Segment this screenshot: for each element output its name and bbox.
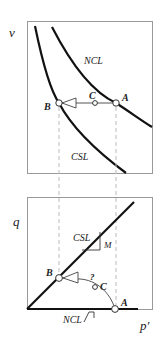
bottom-panel: q p′ CSL M NCL B ? C A [13,198,153,334]
csl-line [27,202,134,309]
top-panel: v NCL CSL B C A [9,22,153,174]
ncl-curve [52,27,152,127]
bottom-panel-frame [28,198,153,310]
csl-label: CSL [71,151,89,162]
ncl-label-bottom: NCL [62,314,82,325]
point-a [113,100,119,106]
point-a-bottom [112,306,119,313]
q-axis-label: q [13,214,20,229]
label-b: B [43,101,51,112]
stress-path [62,278,115,309]
label-c: C [89,90,96,101]
label-a-bottom: A [120,297,128,308]
label-b-bottom: B [45,267,53,278]
ncl-label: NCL [83,55,103,66]
point-b [56,100,62,106]
stress-path-arrow-icon [63,272,78,283]
label-c-bottom: C [100,281,107,292]
critical-state-diagram: v NCL CSL B C A q p′ CSL M NCL [0,0,163,348]
p-axis-label: p′ [139,318,150,333]
csl-label-bottom: CSL [73,232,91,243]
projection-lines [59,107,116,305]
question-mark: ? [90,272,95,282]
point-c-bottom [93,285,98,290]
ncl-pointer-icon [84,312,94,322]
point-b-bottom [56,275,63,282]
label-a: A [121,92,129,103]
point-c [93,101,98,106]
slope-m-label: M [103,240,112,250]
arrow-head-icon [62,98,76,108]
v-axis-label: v [9,25,15,40]
